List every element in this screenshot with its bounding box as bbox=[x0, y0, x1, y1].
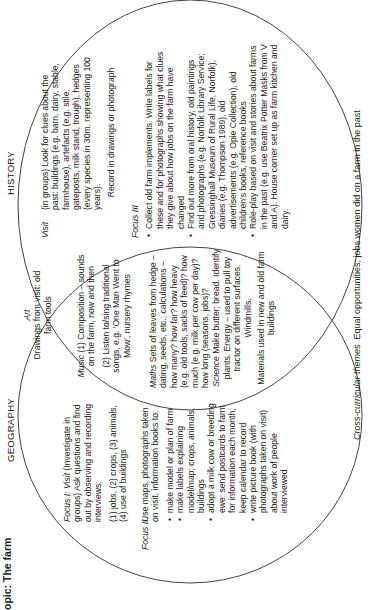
focus2-intro: Use maps, photographs taken on visit, in… bbox=[140, 400, 161, 522]
art-label: Art bbox=[22, 270, 32, 360]
visit-text: (in groups) Look for clues about the pas… bbox=[40, 55, 102, 210]
overlap-music: Music (1) Composition – sounds on the fa… bbox=[76, 254, 136, 378]
focus3-bullet: Find out more from oral history, old pai… bbox=[186, 43, 248, 229]
art-text: Drawings from visit: old farm tools bbox=[32, 270, 53, 360]
history-visit: (in groups) Look for clues about the pas… bbox=[40, 55, 121, 210]
focus1-label: Focus I: Visit bbox=[62, 473, 72, 522]
visit-label: Visit bbox=[40, 222, 50, 238]
footer-label: Cross-curricular themes bbox=[352, 344, 362, 440]
venn-diagram-page: opic: The farm GEOGRAPHY HISTORY Focus I… bbox=[0, 0, 375, 610]
history-label: HISTORY bbox=[6, 151, 16, 195]
focus3-bullet: Role-play based on visit and stories abo… bbox=[248, 43, 290, 229]
focus2-bullet: make labels explaining model/map; crops,… bbox=[175, 400, 206, 513]
overlap-maths: Maths Sets of leaves from hedge – dating… bbox=[148, 248, 277, 388]
focus2-bullet: adopt a milk cow or breeding ewe: send p… bbox=[206, 400, 248, 513]
cross-curricular-themes: Cross-curricular themes Equal opportunit… bbox=[352, 110, 362, 440]
geography-focus1: Focus I: Visit (Investigate in groups) A… bbox=[62, 397, 132, 522]
materials-text: Materials used in new and old farm build… bbox=[256, 248, 277, 388]
music-text-2: (2) Listen to/sing traditional songs, e.… bbox=[101, 254, 132, 378]
music-label: Music bbox=[76, 355, 86, 377]
footer-text: Equal opportunities; jobs women did on a… bbox=[352, 110, 362, 339]
geography-focus2: Use maps, photographs taken on visit, in… bbox=[140, 400, 290, 522]
overlap-art: Art Drawings from visit: old farm tools bbox=[22, 270, 53, 360]
maths-label: Maths bbox=[148, 365, 158, 388]
science-label: Science bbox=[211, 356, 221, 387]
focus3-bullet: Collect old farm implements. Write label… bbox=[144, 43, 186, 229]
focus1-items: (1) jobs, (2) crops, (3) animals, (4) us… bbox=[108, 397, 129, 522]
visit-record: Record in drawings or photograph bbox=[106, 55, 116, 210]
focus2-list: make model or plan of farm make labels e… bbox=[165, 400, 290, 522]
focus2-bullet: make model or plan of farm bbox=[165, 400, 175, 513]
page-title: opic: The farm bbox=[2, 538, 12, 610]
music-text: (1) Composition – sounds on the farm, no… bbox=[76, 255, 96, 366]
geography-label: GEOGRAPHY bbox=[6, 398, 16, 462]
history-focus3: Focus III Collect old farm implements. W… bbox=[130, 43, 290, 238]
focus3-label: Focus III bbox=[130, 43, 140, 238]
focus2-label: Focus II bbox=[140, 519, 150, 550]
focus3-list: Collect old farm implements. Write label… bbox=[144, 43, 290, 238]
focus2-bullet: write picture book (with photographs tak… bbox=[248, 400, 290, 513]
